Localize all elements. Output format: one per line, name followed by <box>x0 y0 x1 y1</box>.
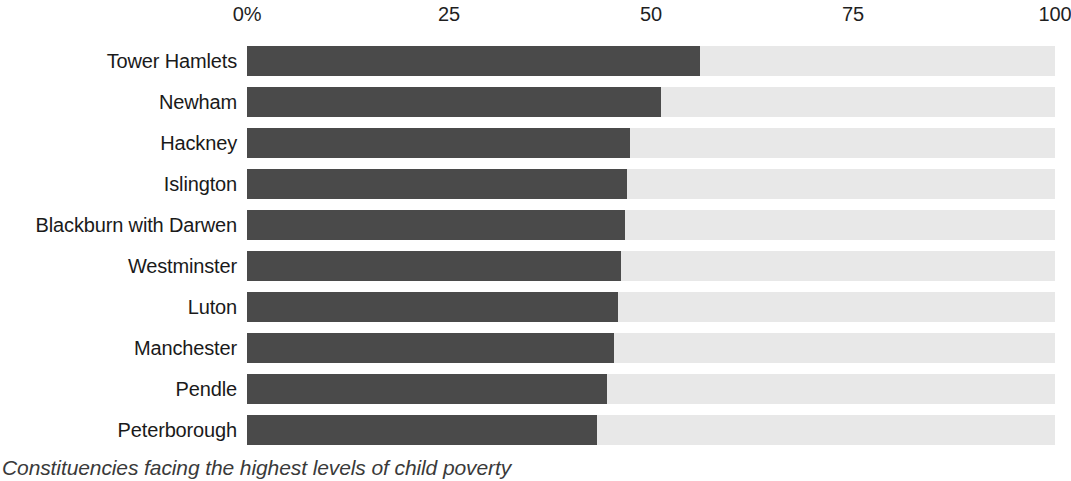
bar-row: Blackburn with Darwen <box>0 210 1063 240</box>
bar-row: Manchester <box>0 333 1063 363</box>
bar-track <box>247 292 1055 322</box>
x-axis-tick-labels: 0%255075100 <box>0 0 1063 30</box>
bar-value <box>247 87 661 117</box>
bar-row: Luton <box>0 292 1063 322</box>
bar-track <box>247 210 1055 240</box>
bar-row-label: Peterborough <box>118 415 237 445</box>
x-tick-label: 75 <box>842 2 864 26</box>
bar-row-label: Newham <box>159 87 237 117</box>
bar-row: Peterborough <box>0 415 1063 445</box>
x-tick-label: 0% <box>233 2 262 26</box>
bar-track <box>247 415 1055 445</box>
bar-row: Westminster <box>0 251 1063 281</box>
bar-row-label: Pendle <box>176 374 237 404</box>
bar-row-label: Tower Hamlets <box>107 46 237 76</box>
chart-caption: Constituencies facing the highest levels… <box>2 455 511 481</box>
bar-value <box>247 128 630 158</box>
bar-row: Pendle <box>0 374 1063 404</box>
x-tick-label: 100 <box>1039 2 1071 26</box>
bar-row: Newham <box>0 87 1063 117</box>
bar-value <box>247 292 618 322</box>
bar-row-label: Islington <box>164 169 237 199</box>
bar-row-label: Blackburn with Darwen <box>36 210 237 240</box>
bar-row: Hackney <box>0 128 1063 158</box>
bar-value <box>247 210 625 240</box>
bar-row: Tower Hamlets <box>0 46 1063 76</box>
bar-track <box>247 87 1055 117</box>
bar-track <box>247 333 1055 363</box>
bar-track <box>247 46 1055 76</box>
x-tick-label: 25 <box>438 2 460 26</box>
bar-value <box>247 169 627 199</box>
bar-value <box>247 415 597 445</box>
bar-row-label: Luton <box>188 292 237 322</box>
bar-track <box>247 251 1055 281</box>
bar-row-label: Westminster <box>128 251 237 281</box>
bar-track <box>247 374 1055 404</box>
bar-row-label: Manchester <box>134 333 237 363</box>
bar-track <box>247 169 1055 199</box>
bar-value <box>247 46 700 76</box>
bar-row: Islington <box>0 169 1063 199</box>
bar-track <box>247 128 1055 158</box>
bar-value <box>247 374 607 404</box>
bar-row-label: Hackney <box>160 128 237 158</box>
x-tick-label: 50 <box>640 2 662 26</box>
bar-value <box>247 333 614 363</box>
bar-value <box>247 251 621 281</box>
chart-plot-area: Tower HamletsNewhamHackneyIslingtonBlack… <box>0 36 1063 448</box>
